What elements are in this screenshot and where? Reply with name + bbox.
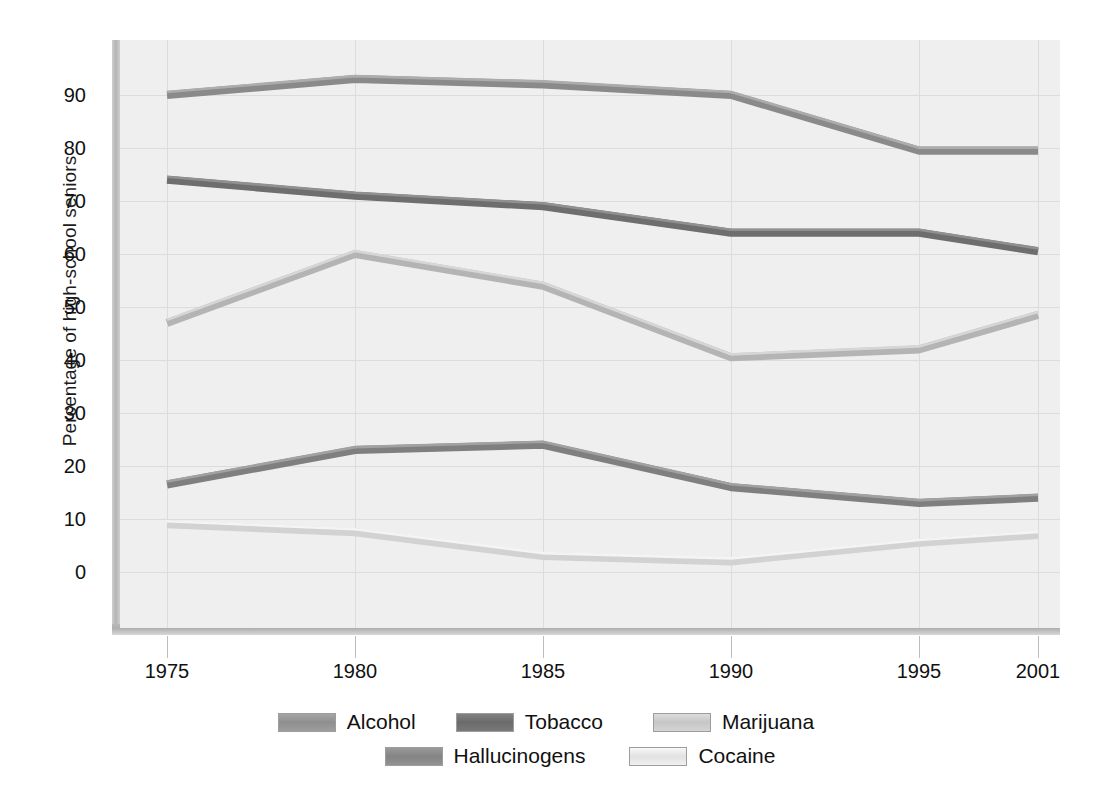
series-lines — [120, 40, 1060, 628]
legend-label: Alcohol — [347, 710, 416, 734]
y-tick-label: 80 — [42, 137, 86, 160]
legend-swatch-alcohol — [278, 713, 336, 732]
legend-row: HallucinogensCocaine — [60, 739, 1100, 773]
x-tick-label: 1995 — [859, 660, 979, 683]
legend-swatch-tobacco — [456, 713, 514, 732]
series-highlight-tobacco — [167, 177, 1038, 249]
y-tick-label: 0 — [42, 561, 86, 584]
y-tick-label: 40 — [42, 349, 86, 372]
series-highlight-hallucinogens — [167, 442, 1038, 500]
series-line-alcohol — [167, 79, 1038, 151]
legend-item-cocaine[interactable]: Cocaine — [629, 744, 775, 768]
x-tick-label: 1975 — [107, 660, 227, 683]
legend-label: Tobacco — [525, 710, 603, 734]
legend-swatch-cocaine — [629, 747, 687, 766]
series-highlight-marijuana — [167, 251, 1038, 354]
chart-legend: AlcoholTobaccoMarijuanaHallucinogensCoca… — [0, 705, 1100, 773]
x-tick-mark — [919, 636, 920, 658]
y-axis-ticks: 0102030405060708090 — [30, 0, 86, 796]
legend-item-marijuana[interactable]: Marijuana — [653, 710, 814, 734]
x-tick-label: 2001 — [978, 660, 1098, 683]
legend-item-tobacco[interactable]: Tobacco — [456, 710, 603, 734]
series-line-tobacco — [167, 180, 1038, 252]
legend-item-hallucinogens[interactable]: Hallucinogens — [385, 744, 586, 768]
series-highlight-cocaine — [167, 521, 1038, 558]
chart-figure: Percentage of high-school seniors 010203… — [0, 0, 1100, 796]
legend-item-alcohol[interactable]: Alcohol — [278, 710, 416, 734]
x-tick-mark — [167, 636, 168, 658]
legend-label: Hallucinogens — [454, 744, 586, 768]
y-tick-label: 60 — [42, 243, 86, 266]
y-tick-label: 20 — [42, 455, 86, 478]
legend-swatch-hallucinogens — [385, 747, 443, 766]
legend-row: AlcoholTobaccoMarijuana — [0, 705, 1100, 739]
x-tick-mark — [355, 636, 356, 658]
x-tick-mark — [543, 636, 544, 658]
series-line-hallucinogens — [167, 445, 1038, 503]
x-tick-mark — [731, 636, 732, 658]
y-tick-label: 90 — [42, 84, 86, 107]
plot-left-bevel — [112, 40, 120, 628]
x-tick-mark — [1038, 636, 1039, 658]
plot-area — [112, 40, 1060, 635]
legend-label: Marijuana — [722, 710, 814, 734]
y-tick-label: 70 — [42, 190, 86, 213]
x-tick-label: 1980 — [295, 660, 415, 683]
x-tick-label: 1985 — [483, 660, 603, 683]
y-tick-label: 50 — [42, 296, 86, 319]
y-tick-label: 30 — [42, 402, 86, 425]
plot-canvas — [120, 40, 1060, 628]
x-tick-label: 1990 — [671, 660, 791, 683]
y-tick-label: 10 — [42, 508, 86, 531]
legend-label: Cocaine — [698, 744, 775, 768]
legend-swatch-marijuana — [653, 713, 711, 732]
